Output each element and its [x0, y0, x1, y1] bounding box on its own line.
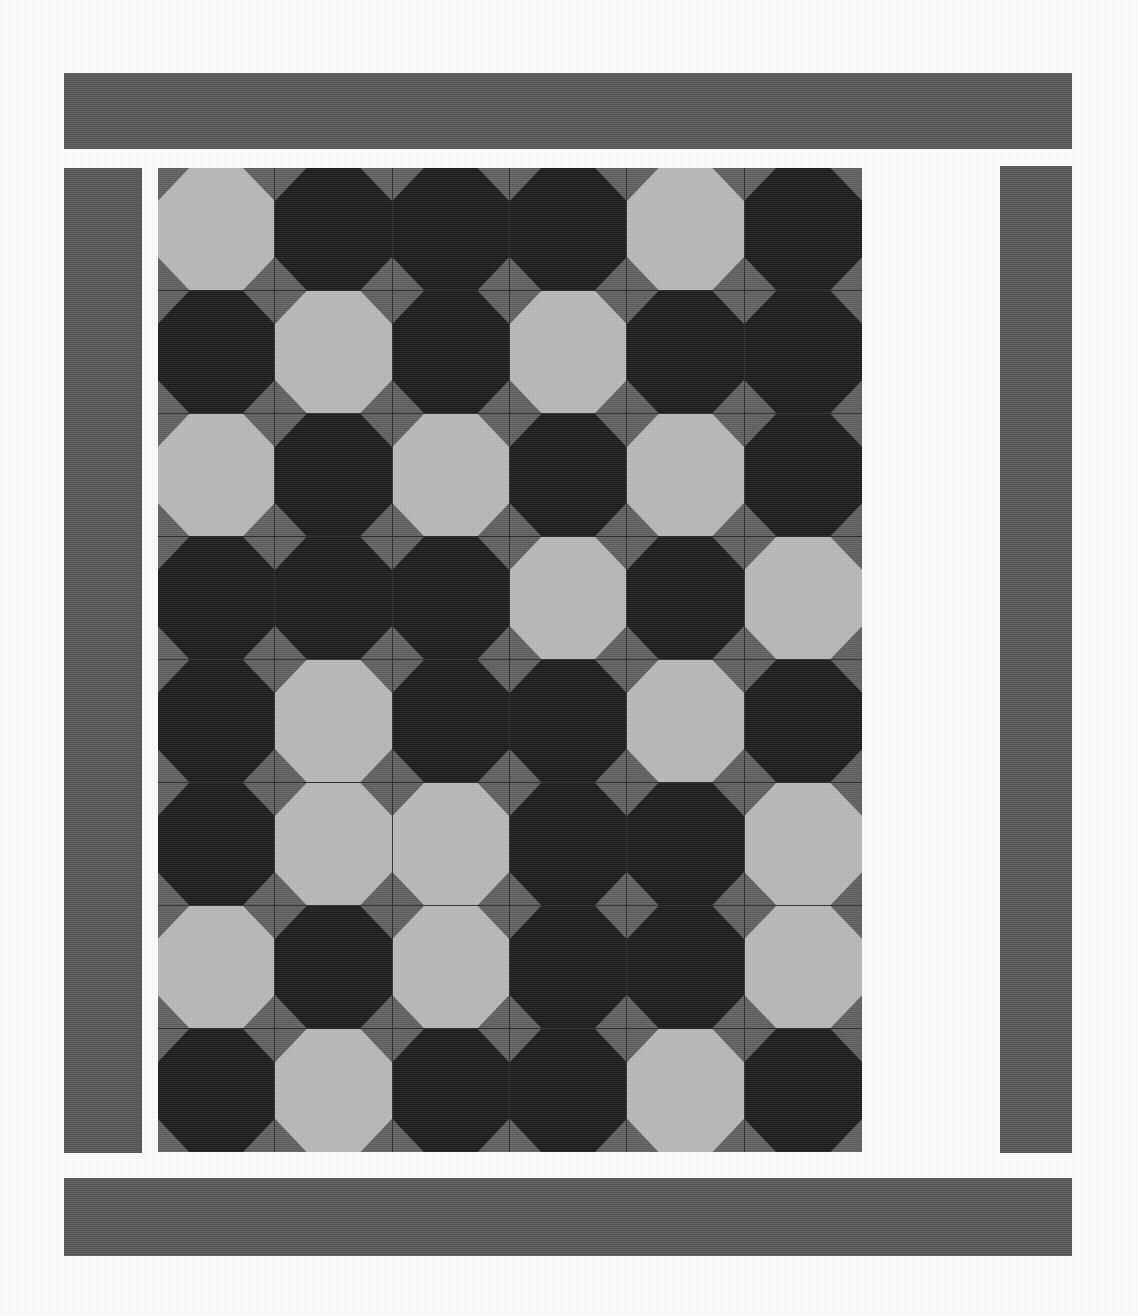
octagon-patch-light	[745, 537, 862, 660]
octagon-patch-dark	[627, 783, 744, 906]
quilt-block-r8-c3	[393, 1029, 510, 1152]
octagon-patch-dark	[745, 660, 862, 783]
octagon-patch-light	[627, 1029, 744, 1152]
quilt-block-r3-c1	[158, 414, 275, 537]
octagon-patch-dark	[627, 537, 744, 660]
quilt-block-r4-c5	[627, 537, 744, 660]
quilt-block-r5-c6	[745, 660, 862, 783]
octagon-patch-light	[158, 168, 275, 291]
octagon-patch-dark	[275, 906, 392, 1029]
octagon-patch-dark	[158, 291, 275, 414]
quilt-block-r8-c4	[510, 1029, 627, 1152]
quilt-block-r5-c1	[158, 660, 275, 783]
octagon-patch-light	[393, 783, 510, 906]
octagon-patch-dark	[158, 1029, 275, 1152]
quilt-border-left	[64, 168, 142, 1153]
octagon-patch-light	[510, 291, 627, 414]
octagon-patch-dark	[745, 1029, 862, 1152]
octagon-patch-light	[275, 291, 392, 414]
quilt-block-r1-c2	[275, 168, 392, 291]
octagon-patch-dark	[510, 1029, 627, 1152]
quilt-border-right	[1000, 166, 1072, 1153]
octagon-patch-dark	[393, 660, 510, 783]
quilt-patch-grid	[158, 168, 862, 1152]
octagon-patch-dark	[745, 291, 862, 414]
octagon-patch-light	[745, 906, 862, 1029]
quilt-block-r7-c1	[158, 906, 275, 1029]
quilt-block-r5-c3	[393, 660, 510, 783]
quilt-block-r7-c5	[627, 906, 744, 1029]
quilt-block-r1-c3	[393, 168, 510, 291]
quilt-block-r2-c5	[627, 291, 744, 414]
quilt-block-r3-c6	[745, 414, 862, 537]
quilt-block-r3-c4	[510, 414, 627, 537]
quilt-block-r7-c3	[393, 906, 510, 1029]
quilt-block-r8-c6	[745, 1029, 862, 1152]
quilt-block-r6-c4	[510, 783, 627, 906]
quilt-block-r8-c2	[275, 1029, 392, 1152]
quilt-block-r2-c1	[158, 291, 275, 414]
quilt-block-r3-c2	[275, 414, 392, 537]
octagon-patch-light	[158, 414, 275, 537]
octagon-patch-dark	[510, 906, 627, 1029]
octagon-patch-dark	[158, 537, 275, 660]
quilt-block-r1-c6	[745, 168, 862, 291]
octagon-patch-dark	[275, 537, 392, 660]
quilt-block-r4-c3	[393, 537, 510, 660]
octagon-patch-light	[393, 414, 510, 537]
octagon-patch-dark	[393, 168, 510, 291]
quilt-block-r8-c1	[158, 1029, 275, 1152]
quilt-block-r4-c2	[275, 537, 392, 660]
octagon-patch-light	[745, 783, 862, 906]
octagon-patch-dark	[275, 414, 392, 537]
quilt-block-r7-c2	[275, 906, 392, 1029]
octagon-patch-light	[275, 660, 392, 783]
octagon-patch-light	[627, 168, 744, 291]
quilt-block-r1-c1	[158, 168, 275, 291]
octagon-patch-dark	[627, 906, 744, 1029]
quilt-block-r4-c1	[158, 537, 275, 660]
quilt-block-r1-c4	[510, 168, 627, 291]
octagon-patch-light	[510, 537, 627, 660]
quilt-block-r6-c5	[627, 783, 744, 906]
quilt-block-r5-c2	[275, 660, 392, 783]
quilt-block-r4-c6	[745, 537, 862, 660]
octagon-patch-dark	[510, 660, 627, 783]
quilt-block-r8-c5	[627, 1029, 744, 1152]
octagon-patch-dark	[275, 168, 392, 291]
octagon-patch-light	[627, 660, 744, 783]
quilt-block-r2-c4	[510, 291, 627, 414]
quilt-border-top	[64, 73, 1072, 149]
quilt-block-r6-c1	[158, 783, 275, 906]
quilt-image	[0, 0, 1138, 1316]
quilt-block-r3-c5	[627, 414, 744, 537]
quilt-block-r7-c4	[510, 906, 627, 1029]
octagon-patch-dark	[393, 291, 510, 414]
octagon-patch-dark	[627, 291, 744, 414]
octagon-patch-dark	[510, 783, 627, 906]
quilt-block-r4-c4	[510, 537, 627, 660]
quilt-block-r3-c3	[393, 414, 510, 537]
octagon-patch-light	[393, 906, 510, 1029]
quilt-block-r7-c6	[745, 906, 862, 1029]
quilt-block-r6-c6	[745, 783, 862, 906]
quilt-block-r5-c5	[627, 660, 744, 783]
quilt-block-r2-c6	[745, 291, 862, 414]
octagon-patch-dark	[745, 168, 862, 291]
octagon-patch-dark	[745, 414, 862, 537]
octagon-patch-dark	[510, 414, 627, 537]
quilt-block-r5-c4	[510, 660, 627, 783]
quilt-block-r2-c2	[275, 291, 392, 414]
quilt-block-r2-c3	[393, 291, 510, 414]
octagon-patch-dark	[510, 168, 627, 291]
octagon-patch-light	[158, 906, 275, 1029]
octagon-patch-light	[275, 1029, 392, 1152]
octagon-patch-light	[627, 414, 744, 537]
quilt-border-bottom	[64, 1178, 1072, 1256]
quilt-block-r6-c2	[275, 783, 392, 906]
octagon-patch-dark	[158, 783, 275, 906]
quilt-block-r6-c3	[393, 783, 510, 906]
quilt-block-r1-c5	[627, 168, 744, 291]
octagon-patch-dark	[393, 1029, 510, 1152]
octagon-patch-dark	[393, 537, 510, 660]
